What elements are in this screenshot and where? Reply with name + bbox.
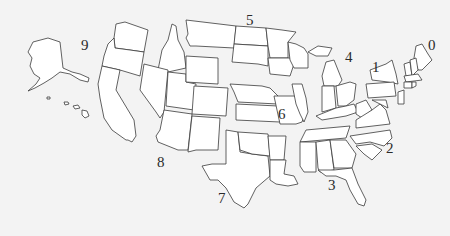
state-alaska (28, 38, 89, 91)
state-kansas (236, 104, 280, 122)
state-nebraska (230, 84, 278, 104)
state-hawaii-1 (47, 97, 50, 99)
state-south-carolina (356, 144, 382, 160)
state-montana (186, 20, 236, 48)
region-6-shapes (230, 84, 308, 124)
state-washington (114, 22, 148, 52)
state-hawaii-3 (73, 105, 80, 109)
region-label-5: 5 (246, 13, 254, 28)
state-rhode-island (412, 82, 416, 88)
state-hawaii-4 (82, 110, 89, 118)
state-arkansas (268, 136, 286, 160)
region-label-2: 2 (386, 141, 394, 156)
state-wyoming (186, 56, 218, 84)
region-label-8: 8 (157, 155, 165, 170)
region-label-7: 7 (218, 191, 226, 206)
state-california (98, 66, 136, 142)
state-georgia (330, 140, 356, 168)
state-idaho (158, 24, 186, 72)
state-michigan-lower (322, 60, 342, 86)
state-michigan-upper (308, 46, 332, 56)
state-north-dakota (234, 26, 268, 46)
region-label-3: 3 (328, 178, 336, 193)
state-hawaii-2 (64, 102, 69, 105)
region-label-4: 4 (345, 50, 353, 65)
state-florida (318, 168, 366, 206)
state-louisiana (270, 160, 298, 186)
state-mississippi (300, 142, 316, 172)
state-indiana (322, 86, 336, 112)
state-ohio (336, 82, 356, 106)
state-new-mexico (188, 116, 220, 152)
state-pennsylvania (366, 82, 396, 98)
region-label-1: 1 (372, 60, 380, 75)
state-connecticut (404, 82, 412, 88)
region-label-6: 6 (278, 107, 286, 122)
state-colorado (192, 86, 228, 116)
state-south-dakota (232, 44, 268, 66)
region-label-9: 9 (81, 38, 89, 53)
region-1-shapes (366, 60, 398, 98)
region-0-shapes (398, 44, 432, 104)
region-label-0: 0 (428, 38, 436, 53)
state-new-jersey (398, 90, 404, 104)
